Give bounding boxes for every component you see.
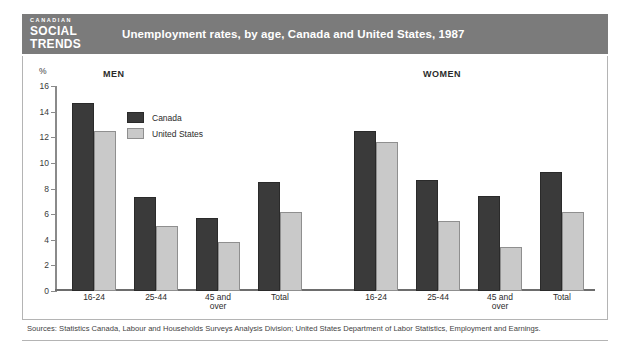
bar-group: 16-24 — [347, 86, 405, 291]
bar-united-states — [218, 242, 240, 291]
panel-title-women: WOMEN — [423, 69, 533, 79]
y-axis-tick-label: 14 — [40, 107, 49, 117]
y-axis-tick-mark — [51, 189, 57, 190]
y-axis-tick-mark — [51, 265, 57, 266]
y-axis-tick-label: 8 — [44, 184, 49, 194]
bar-united-states — [156, 226, 178, 291]
bar-canada — [134, 197, 156, 291]
y-axis-unit-label: % — [39, 66, 47, 76]
y-axis-tick-mark — [51, 240, 57, 241]
bar-canada — [416, 180, 438, 291]
x-axis-category-label: 16-24 — [83, 293, 105, 302]
panel-men: MEN 16-2425-4445 and overTotal — [63, 86, 311, 291]
bar-groups-women: 16-2425-4445 and overTotal — [345, 86, 593, 291]
bar-canada — [196, 218, 218, 291]
bar-canada — [72, 103, 94, 291]
panel-women: WOMEN 16-2425-4445 and overTotal — [345, 86, 593, 291]
chart-title: Unemployment rates, by age, Canada and U… — [108, 28, 465, 40]
bar-united-states — [438, 221, 460, 291]
x-axis-category-label: 45 and over — [205, 293, 231, 311]
bar-group: 25-44 — [409, 86, 467, 291]
bar-united-states — [500, 247, 522, 291]
bar-group: Total — [251, 86, 309, 291]
publication-brand: CANADIAN SOCIAL TRENDS — [22, 18, 108, 51]
x-axis-category-label: 25-44 — [145, 293, 167, 302]
bar-canada — [540, 172, 562, 291]
bar-united-states — [280, 212, 302, 291]
source-note: Sources: Statistics Canada, Labour and H… — [27, 324, 607, 333]
bar-group: 16-24 — [65, 86, 123, 291]
chart-body: % Canada United States 0246810121416 MEN… — [22, 56, 608, 319]
brand-line-social: SOCIAL — [30, 25, 108, 37]
panel-title-men: MEN — [103, 69, 213, 79]
bottom-divider — [22, 340, 608, 341]
x-axis-category-label: Total — [271, 293, 289, 302]
bar-group: 45 and over — [189, 86, 247, 291]
y-axis-tick-mark — [51, 291, 57, 292]
bar-united-states — [562, 212, 584, 291]
y-axis-tick-mark — [51, 112, 57, 113]
bar-canada — [478, 196, 500, 291]
bar-group: 45 and over — [471, 86, 529, 291]
brand-line-trends: TRENDS — [30, 38, 108, 50]
y-axis-tick-label: 2 — [44, 260, 49, 270]
bar-canada — [354, 131, 376, 291]
header-band: CANADIAN SOCIAL TRENDS Unemployment rate… — [22, 14, 608, 54]
bar-groups-men: 16-2425-4445 and overTotal — [63, 86, 311, 291]
y-axis-tick-mark — [51, 137, 57, 138]
y-axis-tick-label: 0 — [44, 286, 49, 296]
bar-united-states — [376, 142, 398, 291]
y-axis-tick-label: 16 — [40, 81, 49, 91]
x-axis-category-label: 25-44 — [427, 293, 449, 302]
bar-canada — [258, 182, 280, 291]
y-axis-tick-label: 10 — [40, 158, 49, 168]
x-axis-category-label: Total — [553, 293, 571, 302]
bar-group: Total — [533, 86, 591, 291]
y-axis-tick-label: 4 — [44, 235, 49, 245]
y-axis-tick-mark — [51, 163, 57, 164]
source-divider — [22, 319, 608, 320]
x-axis-category-label: 16-24 — [365, 293, 387, 302]
chart-figure: CANADIAN SOCIAL TRENDS Unemployment rate… — [0, 0, 632, 349]
y-axis-tick-label: 6 — [44, 209, 49, 219]
brand-line-canadian: CANADIAN — [30, 18, 108, 24]
y-axis-tick-mark — [51, 86, 57, 87]
plot-area: 0246810121416 MEN 16-2425-4445 and overT… — [55, 86, 595, 291]
y-axis-tick-label: 12 — [40, 132, 49, 142]
x-axis-category-label: 45 and over — [487, 293, 513, 311]
y-axis-tick-mark — [51, 214, 57, 215]
bar-group: 25-44 — [127, 86, 185, 291]
bar-united-states — [94, 131, 116, 291]
